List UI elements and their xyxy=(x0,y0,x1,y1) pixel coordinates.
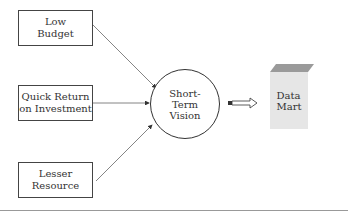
hollow-arrow-icon xyxy=(228,98,257,108)
input-label: Lesser Resource xyxy=(32,168,79,192)
input-box-quick-return: Quick Return on Investment xyxy=(18,85,93,121)
input-label: Quick Return on Investment xyxy=(19,91,92,115)
center-node: Short- Term Vision xyxy=(150,69,220,139)
center-label: Short- Term Vision xyxy=(169,88,201,121)
data-mart-node: Data Mart xyxy=(270,72,308,129)
output-label: Data Mart xyxy=(277,90,302,112)
arrow-lesser-resource xyxy=(96,125,152,181)
cube-icon xyxy=(270,64,314,72)
input-label: Low Budget xyxy=(37,16,74,40)
arrow-low-budget xyxy=(93,25,156,88)
input-box-low-budget: Low Budget xyxy=(18,10,93,46)
bottom-divider xyxy=(0,210,348,211)
input-box-lesser-resource: Lesser Resource xyxy=(18,162,93,198)
